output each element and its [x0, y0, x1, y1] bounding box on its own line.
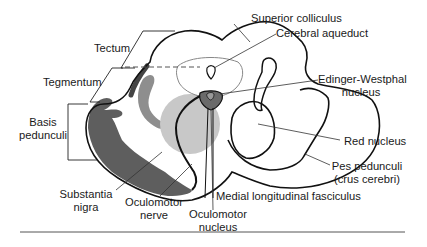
label-oculomotor-nerve-line2: nerve [122, 209, 186, 222]
label-oculomotor-nucleus: Oculomotor nucleus [186, 208, 250, 234]
label-mlf: Medial longitudinal fasciculus [216, 190, 361, 203]
label-oculomotor-nerve: Oculomotor nerve [122, 196, 186, 222]
label-substantia-nigra: Substantia nigra [56, 188, 116, 214]
leader-red-nucleus [258, 124, 340, 140]
label-red-nucleus: Red nucleus [344, 135, 406, 148]
label-substantia-line1: Substantia [56, 188, 116, 201]
label-superior-colliculus: Superior colliculus [251, 12, 342, 25]
label-ew-line2: nucleus [318, 86, 404, 99]
label-basis-line2: pedunculi [14, 129, 72, 142]
label-cerebral-aqueduct: Cerebral aqueduct [276, 27, 368, 40]
label-oculomotor-nerve-line1: Oculomotor [122, 196, 186, 209]
label-oculomotor-nucleus-line1: Oculomotor [186, 208, 250, 221]
label-oculomotor-nucleus-line2: nucleus [186, 221, 250, 234]
label-pes-pedunculi: Pes pedunculi (crus cerebri) [328, 160, 406, 186]
label-basis-line1: Basis [14, 116, 72, 129]
label-basis-pedunculi: Basis pedunculi [14, 116, 72, 142]
label-ew-line1: Edinger-Westphal [318, 73, 404, 86]
label-tectum: Tectum [94, 42, 130, 55]
midbrain-diagram: Tectum Tegmentum Basis pedunculi Substan… [0, 0, 427, 247]
label-substantia-line2: nigra [56, 201, 116, 214]
label-pes-line2: (crus cerebri) [328, 173, 406, 186]
label-pes-line1: Pes pedunculi [328, 160, 406, 173]
leader-pes-pedunculi [305, 154, 330, 165]
label-edinger-westphal: Edinger-Westphal nucleus [318, 73, 404, 99]
label-tegmentum: Tegmentum [43, 76, 101, 89]
red-nucleus-right [231, 102, 275, 159]
